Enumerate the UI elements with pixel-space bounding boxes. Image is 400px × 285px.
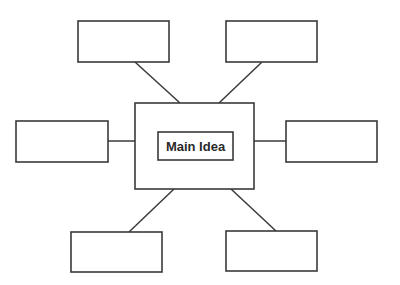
satellite-box-right [286,121,377,162]
satellite-box-left [16,121,108,162]
connector-top-left [135,62,180,103]
concept-map: Main Idea [0,0,400,285]
satellite-box-top-right [226,21,317,62]
connector-bottom-left [129,189,174,232]
main-idea-label: Main Idea [166,139,226,154]
connector-top-right [219,62,262,103]
connector-bottom-right [231,189,276,231]
satellite-box-bottom-right [226,231,317,271]
satellite-box-top-left [78,21,169,62]
satellite-box-bottom-left [71,232,162,272]
